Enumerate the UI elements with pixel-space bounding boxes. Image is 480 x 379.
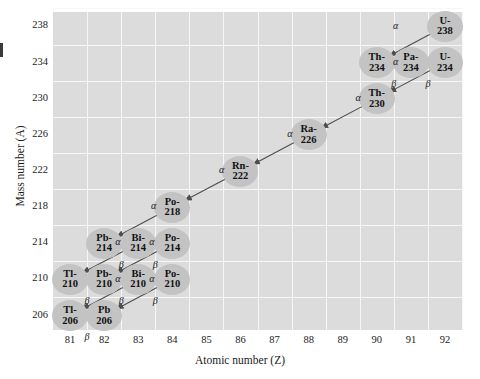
y-tick-label: 238 [14,19,48,30]
x-tick-label: 92 [425,334,465,345]
nuclide-mass: 234 [403,63,419,74]
y-tick-label: 230 [14,92,48,103]
nuclide-mass: 206 [96,316,112,327]
nuclide-mass: 206 [62,316,78,327]
nuclide-node[interactable]: Tl-206 [52,300,88,331]
nuclide-symbol: Tl- [63,305,76,316]
y-tick-label: 214 [14,236,48,247]
nuclide-symbol: U- [439,52,450,63]
nuclide-mass: 210 [96,279,112,290]
nuclide-mass: 210 [62,279,78,290]
nuclide-node[interactable]: U-234 [427,47,463,78]
nuclide-symbol: Pb [98,305,110,316]
nuclide-mass: 210 [130,279,146,290]
decay-mode-label: β [85,331,90,342]
nuclide-mass: 234 [437,63,453,74]
nuclide-node[interactable]: Th-234 [359,47,395,78]
decay-mode-label: β [153,259,158,270]
decay-mode-label: α [115,236,120,247]
y-tick-label: 234 [14,56,48,67]
y-tick-label: 210 [14,272,48,283]
decay-mode-label: β [153,295,158,306]
decay-arrow [185,177,229,200]
nuclide-mass: 214 [96,243,112,254]
y-tick-label: 222 [14,164,48,175]
nuclide-mass: 222 [233,171,249,182]
nuclide-node[interactable]: Pb206 [86,300,122,331]
decay-mode-label: α [219,164,224,175]
decay-mode-label: α [393,19,398,30]
nuclide-symbol: Pa- [403,52,418,63]
nuclide-mass: 214 [130,243,146,254]
nuclide-mass: 210 [164,279,180,290]
decay-chain-figure: Mass number (A) Atomic number (Z) 206210… [0,0,480,379]
decay-mode-label: β [119,259,124,270]
nuclide-node[interactable]: Po-218 [154,192,190,223]
plot-area: U-238Th-234Pa-234U-234Th-230Ra-226Rn-222… [53,12,462,330]
gridline-horizontal [53,8,462,9]
y-tick-label: 218 [14,200,48,211]
decay-mode-label: α [149,272,154,283]
x-axis-label: Atomic number (Z) [0,354,480,366]
page-edge-mark [0,43,3,57]
decay-mode-label: α [355,91,360,102]
y-tick-label: 206 [14,309,48,320]
nuclide-node[interactable]: Pa-234 [393,47,429,78]
nuclide-mass: 238 [437,26,453,37]
nuclide-node[interactable]: Th-230 [359,83,395,114]
nuclide-mass: 218 [164,207,180,218]
nuclide-node[interactable]: Rn-222 [222,156,258,187]
nuclide-node[interactable]: Ra-226 [291,119,327,150]
decay-arrow [322,105,366,128]
decay-mode-label: β [425,78,430,89]
decay-mode-label: α [115,272,120,283]
nuclide-node[interactable]: Po-210 [154,264,190,295]
nuclide-symbol: Th- [369,52,385,63]
nuclide-mass: 226 [301,135,317,146]
y-tick-label: 226 [14,128,48,139]
decay-mode-label: α [149,236,154,247]
decay-mode-label: β [85,295,90,306]
decay-mode-label: β [391,78,396,89]
decay-arrow [253,141,297,164]
decay-mode-label: α [393,55,398,66]
nuclide-node[interactable]: U-238 [427,11,463,42]
decay-mode-label: α [287,128,292,139]
nuclide-node[interactable]: Tl-210 [52,264,88,295]
nuclide-mass: 214 [164,243,180,254]
decay-mode-label: β [119,295,124,306]
nuclide-mass: 234 [369,63,385,74]
nuclide-node[interactable]: Po-214 [154,228,190,259]
decay-mode-label: α [151,200,156,211]
nuclide-mass: 230 [369,99,385,110]
